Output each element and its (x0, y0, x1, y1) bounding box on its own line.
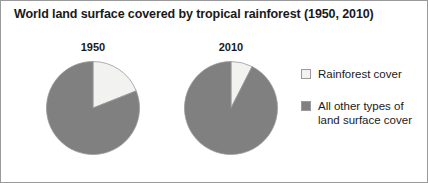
pie-svg-1950 (46, 61, 140, 155)
legend-swatch-other-land-surface (301, 101, 311, 111)
legend-label-rainforest-cover: Rainforest cover (318, 67, 402, 81)
legend-item-rainforest-cover: Rainforest cover (301, 67, 425, 81)
legend-item-other-land-surface: All other types of land surface cover (301, 99, 425, 127)
legend-swatch-rainforest-cover (301, 69, 311, 79)
chart-figure: World land surface covered by tropical r… (0, 0, 428, 183)
pie-slice (185, 62, 278, 155)
pie-svg-2010 (184, 61, 278, 155)
legend-label-other-land-surface: All other types of land surface cover (318, 99, 425, 127)
pie-chart-1950: 1950 (46, 41, 140, 171)
pie-label-2010: 2010 (184, 41, 278, 53)
chart-title: World land surface covered by tropical r… (14, 7, 418, 21)
pie-label-1950: 1950 (46, 41, 140, 53)
chart-legend: Rainforest cover All other types of land… (301, 67, 425, 145)
pie-chart-2010: 2010 (184, 41, 278, 171)
